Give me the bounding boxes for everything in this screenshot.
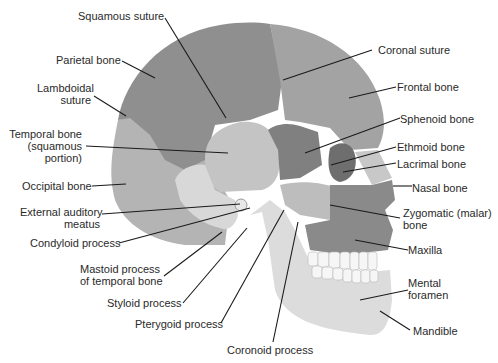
- label-squamous-suture: Squamous suture: [78, 10, 164, 22]
- label-parietal-bone: Parietal bone: [56, 54, 121, 66]
- label-mastoid-process-line1: Mastoid process: [80, 263, 160, 275]
- label-mastoid-process: Mastoid process of temporal bone: [80, 263, 160, 287]
- label-external-auditory-line2: meatus: [20, 218, 100, 230]
- label-mandible: Mandible: [413, 325, 458, 337]
- label-mental-foramen: Mental foramen: [408, 277, 448, 301]
- label-external-auditory-meatus: External auditory meatus: [20, 206, 100, 230]
- label-zygomatic-bone: Zygomatic (malar) bone: [403, 207, 492, 231]
- label-occipital-bone: Occipital bone: [22, 180, 92, 192]
- label-frontal-bone: Frontal bone: [397, 81, 459, 93]
- label-condyloid-process: Condyloid process: [30, 237, 121, 249]
- label-lambdoidal-suture: Lambdoidal suture: [37, 82, 91, 106]
- label-lambdoidal-suture-line1: Lambdoidal: [37, 82, 91, 94]
- label-mental-foramen-line2: foramen: [408, 289, 448, 301]
- label-maxilla: Maxilla: [408, 244, 442, 256]
- label-lambdoidal-suture-line2: suture: [37, 94, 91, 106]
- label-coronal-suture: Coronal suture: [378, 44, 450, 56]
- label-styloid-process: Styloid process: [107, 297, 182, 309]
- label-zygomatic-bone-line2: bone: [403, 219, 492, 231]
- label-mastoid-process-line2: of temporal bone: [80, 275, 160, 287]
- orbit-ethmoid-lacrimal-region: [328, 143, 355, 182]
- label-external-auditory-line1: External auditory: [20, 206, 100, 218]
- label-temporal-bone-line2: (squamous: [8, 140, 82, 152]
- label-temporal-bone-line3: portion): [8, 152, 82, 164]
- label-zygomatic-bone-line1: Zygomatic (malar): [403, 207, 492, 219]
- label-sphenoid-bone: Sphenoid bone: [400, 113, 474, 125]
- label-temporal-bone-line1: Temporal bone: [8, 128, 82, 140]
- nasal-bone-region: [355, 150, 392, 185]
- temporal-squamous-region: [205, 122, 279, 192]
- label-nasal-bone: Nasal bone: [412, 182, 468, 194]
- label-mental-foramen-line1: Mental: [408, 277, 448, 289]
- label-ethmoid-bone: Ethmoid bone: [397, 141, 465, 153]
- label-temporal-bone: Temporal bone (squamous portion): [8, 128, 82, 164]
- label-pterygoid-process: Pterygoid process: [135, 318, 223, 330]
- label-coronoid-process: Coronoid process: [227, 344, 313, 356]
- label-lacrimal-bone: Lacrimal bone: [397, 158, 466, 170]
